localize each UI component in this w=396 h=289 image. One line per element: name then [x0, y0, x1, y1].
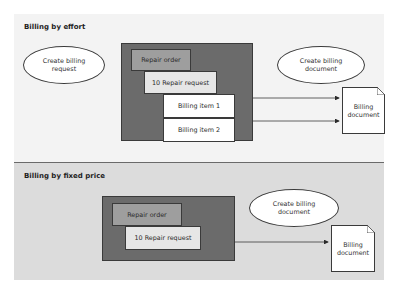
connector-arrows-effort: [14, 14, 384, 162]
page-fold-icon: [367, 225, 375, 233]
billing-by-effort-panel: Billing by effort Create billing request…: [14, 14, 384, 163]
page-fold-icon: [377, 87, 385, 95]
billing-document-label-fixed: Billing document: [335, 241, 371, 257]
billing-by-fixed-price-panel: Billing by fixed price Repair order 10 R…: [14, 163, 384, 280]
connector-arrow-fixed: [14, 163, 384, 280]
billing-document-label-effort: Billing document: [346, 103, 382, 119]
